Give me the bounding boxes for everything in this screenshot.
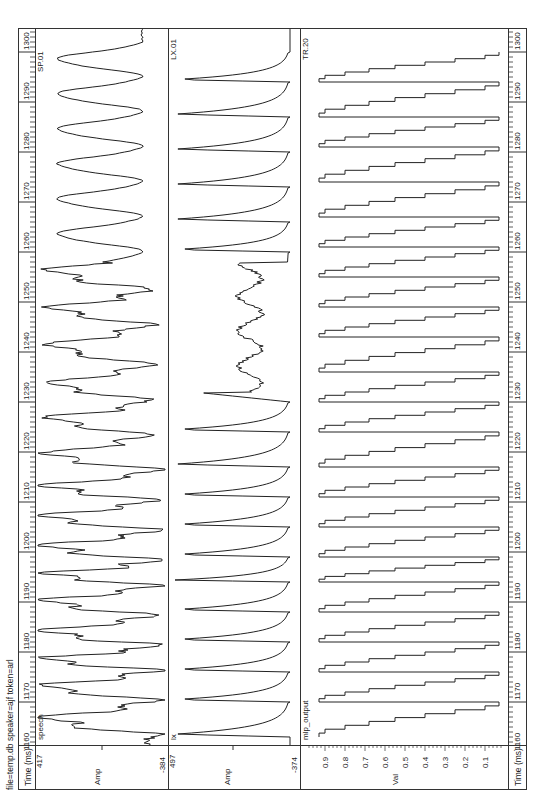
mlp-output-trace xyxy=(319,52,499,737)
time-tick-label: 1160 xyxy=(22,732,31,750)
mlp-ylabel: Val xyxy=(391,774,400,785)
mlp-tick-label: 0.4 xyxy=(421,756,430,768)
time-axis-label-right: Time (ms) xyxy=(513,748,523,786)
time-tick-label: 1170 xyxy=(513,682,522,700)
time-tick-label: 1290 xyxy=(513,82,522,100)
speech-panel-label: speech xyxy=(36,714,45,740)
time-tick-label: 1240 xyxy=(22,332,31,350)
time-tick-label: 1170 xyxy=(22,682,31,700)
mlp-tick-label: 0.6 xyxy=(381,756,390,768)
mlp-tick-label: 0.1 xyxy=(481,756,490,768)
time-tick-label: 1190 xyxy=(22,582,31,600)
mlp-tick-label: 0.2 xyxy=(461,756,470,768)
lx-waveform xyxy=(175,29,290,745)
time-tick-label: 1220 xyxy=(22,432,31,450)
time-tick-label: 1250 xyxy=(513,282,522,300)
mlp-tick-label: 0.5 xyxy=(401,756,410,768)
mlp-tick-label: 0.7 xyxy=(361,756,370,768)
lx-panel-label: lx xyxy=(169,734,178,740)
time-tick-label: 1300 xyxy=(513,32,522,50)
speech-ymin: -384 xyxy=(158,756,167,773)
time-axis-right: 1160117011801190120012101220123012401250… xyxy=(508,32,526,750)
time-tick-label: 1300 xyxy=(22,32,31,50)
time-tick-label: 1210 xyxy=(22,482,31,500)
mlp-panel-label: mlp_output xyxy=(301,700,310,740)
time-tick-label: 1240 xyxy=(513,332,522,350)
time-tick-label: 1200 xyxy=(513,532,522,550)
time-tick-label: 1220 xyxy=(513,432,522,450)
lx-tag: LX.01 xyxy=(169,39,178,60)
chart-canvas: 1160117011801190120012101220123012401250… xyxy=(0,0,542,796)
mlp-tick-label: 0.9 xyxy=(321,756,330,768)
time-tick-label: 1280 xyxy=(22,132,31,150)
mlp-tick-label: 0.3 xyxy=(441,756,450,768)
time-tick-label: 1280 xyxy=(513,132,522,150)
file-info-label: file=temp.db speaker=ajf token=arl xyxy=(5,659,15,790)
speech-ylabel: Amp xyxy=(93,768,102,785)
mlp-tick-label: 0.8 xyxy=(341,756,350,768)
mlp-value-axis: 0.90.80.70.60.50.40.30.20.1 xyxy=(309,745,501,768)
time-tick-label: 1210 xyxy=(513,482,522,500)
time-tick-label: 1270 xyxy=(22,182,31,200)
time-tick-label: 1200 xyxy=(22,532,31,550)
time-tick-label: 1290 xyxy=(22,82,31,100)
time-tick-label: 1250 xyxy=(22,282,31,300)
mlp-tag: TR.20 xyxy=(301,38,310,60)
speech-waveform xyxy=(38,29,165,745)
time-tick-label: 1260 xyxy=(513,232,522,250)
time-axis-left: 1160117011801190120012101220123012401250… xyxy=(18,32,35,750)
lx-ymax: 497 xyxy=(168,754,177,768)
speech-tag: SP.01 xyxy=(36,51,45,72)
time-tick-label: 1270 xyxy=(513,182,522,200)
time-tick-label: 1180 xyxy=(22,632,31,650)
time-tick-label: 1160 xyxy=(513,732,522,750)
chart-frame xyxy=(19,29,527,790)
time-tick-label: 1230 xyxy=(22,382,31,400)
lx-ymin: -374 xyxy=(290,756,299,773)
time-tick-label: 1230 xyxy=(513,382,522,400)
speech-ymax: 417 xyxy=(35,754,44,768)
lx-ylabel: Amp xyxy=(223,768,232,785)
time-tick-label: 1180 xyxy=(513,632,522,650)
time-tick-label: 1260 xyxy=(22,232,31,250)
time-tick-label: 1190 xyxy=(513,582,522,600)
time-axis-label-left: Time (ms) xyxy=(23,748,33,786)
